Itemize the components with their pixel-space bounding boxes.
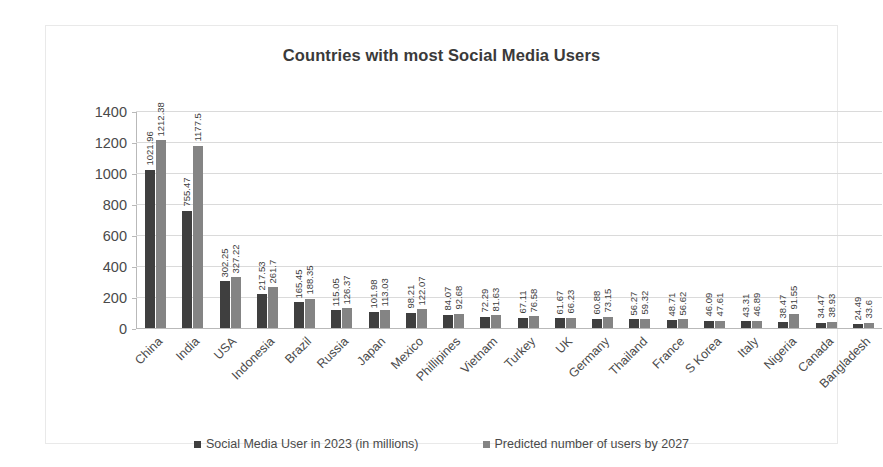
gridline: 0 (136, 328, 882, 329)
bar-value-label: 1021.96 (145, 131, 155, 165)
x-axis-tick-label: Brazil (283, 335, 314, 366)
y-axis-tick-mark (132, 267, 136, 268)
bar[interactable]: 98.21 (406, 313, 416, 328)
bar-value-label: 113.03 (379, 278, 389, 306)
bar[interactable]: 92.68 (454, 314, 464, 328)
legend-item[interactable]: Predicted number of users by 2027 (483, 437, 690, 451)
bar-value-label: 101.98 (368, 279, 378, 308)
y-axis-tick-label: 1000 (95, 166, 136, 182)
bar[interactable]: 91.55 (789, 314, 799, 328)
bar[interactable]: 217.53 (257, 294, 267, 328)
bar[interactable]: 56.27 (629, 319, 639, 328)
legend-item[interactable]: Social Media User in 2023 (in millions) (194, 437, 419, 451)
bar-value-label: 46.89 (752, 293, 762, 317)
bar-value-label: 38.47 (778, 294, 788, 318)
bar[interactable]: 46.89 (752, 321, 762, 328)
bar-value-label: 122.07 (416, 276, 426, 305)
chart-legend: Social Media User in 2023 (in millions)P… (46, 437, 837, 451)
bar-value-label: 91.55 (789, 286, 799, 310)
bar[interactable]: 48.71 (667, 320, 677, 328)
bar[interactable]: 61.67 (555, 318, 565, 328)
bar-value-label: 60.88 (592, 291, 602, 315)
bar-value-label: 56.27 (629, 292, 639, 316)
bar-group: 24.4933.6 (845, 111, 882, 328)
bar-value-label: 1177.5 (193, 113, 203, 141)
bar-group: 165.45188.35 (286, 111, 323, 328)
bar-value-label: 755.47 (182, 178, 192, 207)
bar-group: 302.25327.22 (212, 111, 249, 328)
bar-group: 84.0792.68 (435, 111, 472, 328)
legend-swatch-icon (194, 441, 201, 448)
bar[interactable]: 47.61 (715, 321, 725, 328)
bar-value-label: 67.11 (517, 291, 527, 314)
bar[interactable]: 24.49 (853, 324, 863, 328)
bar-value-label: 38.93 (826, 294, 836, 318)
bar[interactable]: 1177.5 (193, 146, 203, 329)
bar[interactable]: 126.37 (342, 308, 352, 328)
x-axis-tick-label: UK (554, 335, 575, 356)
x-axis-tick-label: Italy (736, 335, 761, 360)
bar[interactable]: 327.22 (231, 277, 241, 328)
x-axis-tick-label: Japan (355, 335, 388, 368)
x-axis-tick-label: Thailand (607, 335, 650, 378)
bar-value-label: 98.21 (405, 285, 415, 309)
bar[interactable]: 1021.96 (145, 170, 155, 328)
bar-value-label: 33.6 (863, 300, 873, 319)
bar-value-label: 66.23 (565, 290, 575, 314)
bar[interactable]: 33.6 (864, 323, 874, 328)
bar[interactable]: 84.07 (443, 315, 453, 328)
y-axis-tick-mark (132, 143, 136, 144)
bar-group: 61.6766.23 (547, 111, 584, 328)
bar[interactable]: 81.63 (491, 315, 501, 328)
bar[interactable]: 66.23 (566, 318, 576, 328)
bar[interactable]: 122.07 (417, 309, 427, 328)
bar[interactable]: 60.88 (592, 319, 602, 328)
bar[interactable]: 67.11 (518, 318, 528, 328)
bar-value-label: 43.31 (741, 294, 751, 318)
x-axis-tick-label: India (174, 335, 202, 363)
y-axis-tick-label: 1200 (95, 135, 136, 151)
y-axis-tick-mark (132, 205, 136, 206)
bar-group: 67.1176.58 (510, 111, 547, 328)
chart-frame: Countries with most Social Media Users 0… (45, 25, 838, 444)
bar-value-label: 24.49 (852, 296, 862, 320)
bar[interactable]: 38.47 (778, 322, 788, 328)
bar-value-label: 59.32 (640, 291, 650, 315)
bar[interactable]: 46.09 (704, 321, 714, 328)
legend-swatch-icon (483, 441, 490, 448)
x-axis-tick-label: S Korea (683, 335, 724, 376)
bar[interactable]: 43.31 (741, 321, 751, 328)
bar[interactable]: 101.98 (369, 312, 379, 328)
bar[interactable]: 73.15 (603, 317, 613, 328)
bar-value-label: 115.05 (331, 278, 341, 306)
y-axis-tick-mark (132, 329, 136, 330)
bar[interactable]: 302.25 (220, 281, 230, 328)
bar-group: 46.0947.61 (696, 111, 733, 328)
x-axis-tick-label: Russia (315, 335, 351, 371)
bar[interactable]: 188.35 (305, 299, 315, 328)
bar[interactable]: 755.47 (182, 211, 192, 328)
bar[interactable]: 113.03 (380, 310, 390, 328)
bar-group: 56.2759.32 (621, 111, 658, 328)
bar-group: 48.7156.62 (659, 111, 696, 328)
bar[interactable]: 165.45 (294, 302, 304, 328)
bar-value-label: 327.22 (230, 244, 240, 273)
bar-value-label: 48.71 (666, 293, 676, 317)
bar-group: 1021.961212.38 (137, 111, 174, 328)
bar[interactable]: 34.47 (816, 323, 826, 328)
bar[interactable]: 1212.38 (156, 140, 166, 328)
bar[interactable]: 56.62 (678, 319, 688, 328)
legend-label: Predicted number of users by 2027 (495, 437, 690, 451)
bar-group: 101.98113.03 (361, 111, 398, 328)
bar[interactable]: 38.93 (827, 322, 837, 328)
bar-value-label: 73.15 (603, 289, 613, 313)
bar-group: 72.2981.63 (472, 111, 509, 328)
x-axis-tick-label: Nigeria (762, 335, 799, 372)
bar[interactable]: 72.29 (480, 317, 490, 328)
bar[interactable]: 59.32 (640, 319, 650, 328)
bar-value-label: 34.47 (815, 295, 825, 319)
bar[interactable]: 76.58 (529, 316, 539, 328)
bar[interactable]: 261.7 (268, 287, 278, 328)
bar[interactable]: 115.05 (331, 310, 341, 328)
bar-group: 98.21122.07 (398, 111, 435, 328)
